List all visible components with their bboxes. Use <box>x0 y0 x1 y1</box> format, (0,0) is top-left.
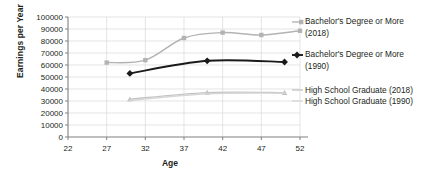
data-point-marker <box>259 33 263 37</box>
legend-entry-bachelor-2018: Bachelor's Degree or More (2018) <box>305 16 404 39</box>
y-tick-label: 30000 <box>41 97 64 106</box>
y-tick-label: 40000 <box>41 85 64 94</box>
y-tick-label: 50000 <box>41 73 64 82</box>
legend-label-hs-2018: High School Graduate (2018) <box>305 85 413 97</box>
x-axis-title: Age <box>110 158 230 168</box>
legend-label-bachelor-1990-line1: Bachelor's Degree or More <box>305 49 404 61</box>
legend-entry-hs-2018: High School Graduate (2018) <box>305 85 413 97</box>
data-point-marker <box>204 57 211 64</box>
x-tick-label: 52 <box>296 144 305 153</box>
legend-label-bachelor-1990-line2: (1990) <box>305 61 404 73</box>
data-point-marker <box>298 29 302 33</box>
series-0 <box>104 29 302 65</box>
series-line <box>107 31 300 63</box>
data-point-marker <box>220 30 224 34</box>
y-tick-label: 80000 <box>41 37 64 46</box>
legend-entry-hs-1990: High School Graduate (1990) <box>305 96 413 108</box>
y-tick-label: 20000 <box>41 109 64 118</box>
y-tick-label: 10000 <box>41 121 64 130</box>
x-tick-label: 22 <box>64 144 73 153</box>
y-tick-label: 60000 <box>41 61 64 70</box>
y-tick-label: 0 <box>59 133 64 142</box>
y-tick-label: 70000 <box>41 49 64 58</box>
x-tick-label: 42 <box>218 144 227 153</box>
data-point-marker <box>126 70 133 77</box>
data-point-marker <box>182 36 186 40</box>
x-tick-label: 32 <box>141 144 150 153</box>
y-tick-label: 100000 <box>36 13 63 22</box>
y-tick-label: 90000 <box>41 25 64 34</box>
x-tick-label: 37 <box>180 144 189 153</box>
legend-label-bachelor-2018-line2: (2018) <box>305 28 404 40</box>
x-tick-label: 27 <box>102 144 111 153</box>
x-axis-tick-labels: 22273237424752 <box>64 144 305 153</box>
chart-container: 1000009000080000700006000050000400003000… <box>0 0 436 173</box>
x-tick-label: 47 <box>257 144 266 153</box>
legend-entry-bachelor-1990: Bachelor's Degree or More (1990) <box>305 49 404 72</box>
legend-label-bachelor-2018-line1: Bachelor's Degree or More <box>305 16 404 28</box>
y-axis-tick-labels: 1000009000080000700006000050000400003000… <box>36 13 63 142</box>
series-1 <box>126 57 287 76</box>
axis-lines <box>65 17 308 140</box>
data-point-marker <box>104 60 108 64</box>
legend-marker-bachelor-1990-diamond <box>294 52 301 59</box>
legend-label-hs-1990: High School Graduate (1990) <box>305 96 413 108</box>
series-2 <box>127 90 287 102</box>
data-point-marker <box>281 59 288 66</box>
legend-marker-bachelor-2018-square <box>299 20 303 24</box>
y-axis-title: Earnings per Year <box>15 0 25 89</box>
data-point-marker <box>143 58 147 62</box>
